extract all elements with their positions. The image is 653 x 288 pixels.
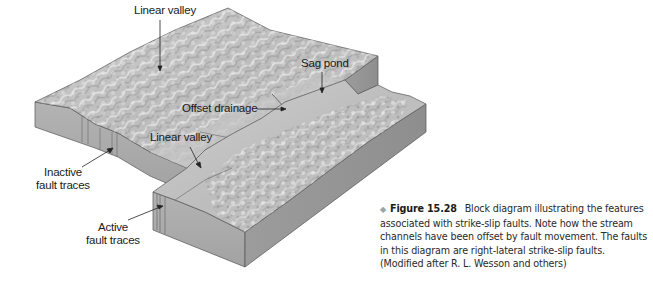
label-sag-pond: Sag pond	[301, 57, 349, 70]
label-offset-drainage: Offset drainage	[182, 102, 257, 115]
caption-bullet-icon: ◆	[380, 205, 386, 214]
label-active-line1: Active	[84, 221, 142, 234]
arrow-inactive-fault-traces	[82, 150, 110, 167]
figure-number: Figure 15.28	[390, 203, 457, 214]
label-inactive-fault-traces: Inactive fault traces	[30, 166, 96, 192]
label-linear-valley-top: Linear valley	[134, 4, 196, 17]
label-inactive-line2: fault traces	[30, 179, 96, 192]
figure-caption: ◆Figure 15.28Block diagram illustrating …	[380, 202, 650, 271]
label-active-fault-traces: Active fault traces	[84, 221, 142, 247]
label-active-line2: fault traces	[84, 234, 142, 247]
label-inactive-line1: Inactive	[30, 166, 96, 179]
label-linear-valley-lower: Linear valley	[150, 131, 212, 144]
